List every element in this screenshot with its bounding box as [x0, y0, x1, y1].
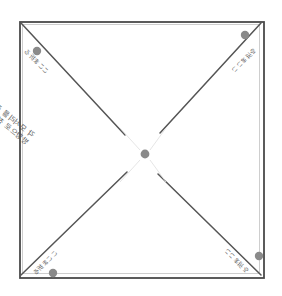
dot-top-left — [33, 47, 41, 55]
dot-bottom-right — [255, 252, 263, 260]
dot-top-right — [241, 31, 249, 39]
dot-bottom-left — [49, 269, 57, 277]
dot-center — [141, 150, 150, 159]
diagram-vector-layer — [0, 0, 282, 296]
origami-diagram-canvas: ここま折る ここま折る ここま折る ここま折る 각 모서리를 중앙의 점 방향으… — [0, 0, 282, 296]
